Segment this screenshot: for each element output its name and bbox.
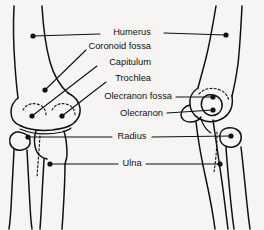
label-ulna: Ulna — [122, 158, 142, 168]
coronoid-fossa-leader-dot — [42, 87, 47, 92]
anterior-view-bones — [9, 6, 80, 229]
lateral-ulna-anterior-border — [196, 122, 215, 229]
coronoid-fossa-leader-line — [45, 50, 86, 90]
label-olecranon: Olecranon — [120, 108, 163, 118]
lateral-radius-shaft-posterior — [241, 147, 250, 229]
anterior-ulna-proximal-lateral — [64, 131, 67, 164]
ulna-leader-dot-left — [47, 161, 52, 166]
lateral-distal-humerus-condyle — [190, 88, 233, 122]
anterior-ulna-shaft-medial — [62, 164, 65, 229]
ulna-leader-dot-right — [217, 161, 222, 166]
lateral-humerus-posterior-border — [232, 6, 242, 96]
label-radius: Radius — [118, 131, 147, 141]
lateral-view-bones — [181, 6, 250, 229]
label-capitulum: Capitulum — [109, 57, 151, 67]
anterior-capitulum-arc — [23, 104, 46, 115]
label-olecranon-fossa: Olecranon fossa — [104, 91, 173, 101]
lateral-humerus-anterior-border — [198, 6, 216, 88]
humerus-leader-line-right — [164, 33, 226, 35]
label-trochlea: Trochlea — [115, 73, 152, 83]
radius-leader-dot-right — [228, 133, 233, 138]
trochlea-leader-line — [62, 82, 106, 116]
capitulum-leader-line — [32, 66, 97, 116]
trochlea-leader-dot — [59, 113, 64, 118]
anterior-radius-shaft — [9, 150, 14, 229]
humerus-leader-dot-left — [30, 33, 35, 38]
anterior-distal-humerus-margin — [21, 126, 69, 130]
humerus-leader-line-left — [33, 34, 100, 36]
olecranon-fossa-leader-dot — [210, 94, 215, 99]
lateral-radius-shaft-anterior — [226, 147, 234, 229]
anterior-coronoid-process — [35, 131, 48, 159]
label-coronoid-fossa: Coronoid fossa — [88, 41, 151, 51]
anterior-ulna-shaft-lateral — [40, 159, 44, 229]
olecranon-leader-dot — [210, 107, 215, 112]
anatomy-figure: Humerus Coronoid fossa Capitulum Trochle… — [0, 0, 264, 230]
olecranon-leader-line — [167, 110, 213, 113]
anterior-humerus-lateral-border — [13, 6, 18, 98]
anterior-lateral-epicondyle — [11, 98, 21, 126]
label-texts: Humerus Coronoid fossa Capitulum Trochle… — [88, 27, 172, 168]
elbow-diagram-svg: Humerus Coronoid fossa Capitulum Trochle… — [0, 0, 264, 230]
radius-leader-dot-left — [25, 134, 30, 139]
anterior-radius-shaft-medial — [27, 150, 32, 229]
humerus-leader-dot-right — [223, 32, 228, 37]
label-humerus: Humerus — [113, 27, 151, 37]
capitulum-leader-dot — [29, 113, 34, 118]
